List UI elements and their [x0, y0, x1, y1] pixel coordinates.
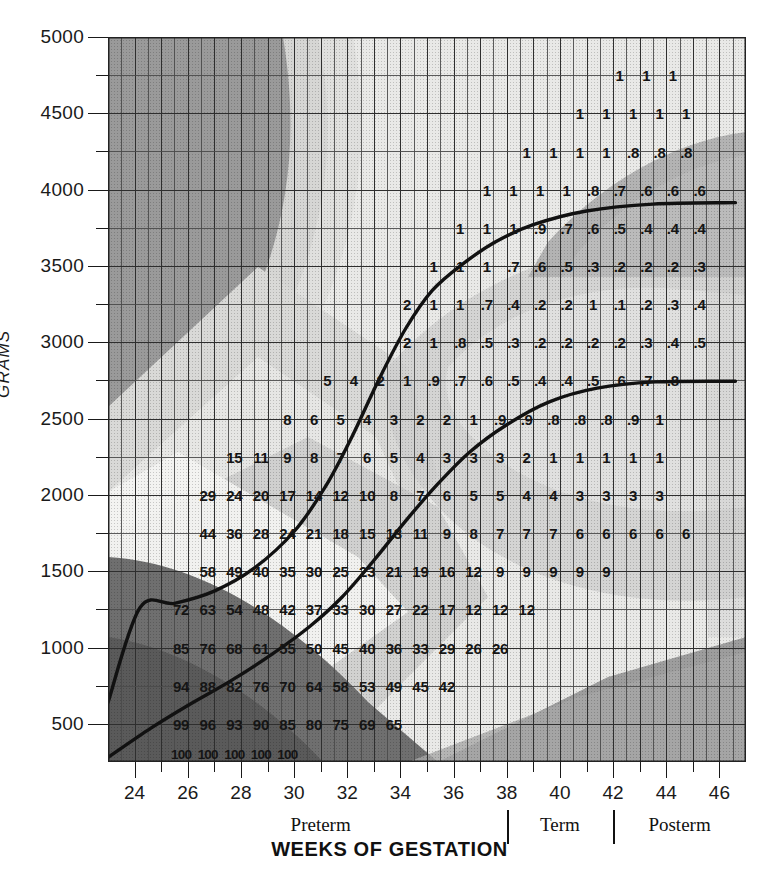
grid-cell-value: 1 — [509, 181, 517, 198]
grid-cell-value: 2 — [416, 410, 424, 427]
grid-cell-value: .4 — [667, 334, 679, 351]
grid-cell-value: 69 — [359, 715, 375, 732]
grid-cell-value: .8 — [454, 334, 466, 351]
grid-cell-value: 18 — [332, 525, 348, 542]
grid-cell-value: 1 — [602, 143, 610, 160]
grid-cell-value: .7 — [614, 181, 626, 198]
grid-cell-value: 1 — [669, 67, 677, 84]
grid-cell-value: .9 — [521, 410, 533, 427]
y-axis-tick-label: 2000 — [41, 484, 84, 506]
grid-cell-value: 26 — [465, 639, 481, 656]
grid-cell-value: 7 — [496, 525, 504, 542]
grid-cell-value: 63 — [200, 601, 216, 618]
y-axis-minor-tick — [96, 228, 108, 229]
y-axis-minor-tick — [96, 75, 108, 76]
grid-cell-value: 5 — [323, 372, 331, 389]
grid-cell-value: 21 — [306, 525, 322, 542]
grid-cell-value: 76 — [253, 677, 269, 694]
grid-cell-value: .2 — [667, 257, 679, 274]
grid-cell-value: 12 — [465, 563, 481, 580]
x-axis-tick-label: 42 — [603, 782, 624, 804]
grid-cell-value: 58 — [200, 563, 216, 580]
grid-cell-value: 28 — [253, 525, 269, 542]
grid-cell-value: 1 — [576, 448, 584, 465]
y-axis-tick-label: 4500 — [41, 102, 84, 124]
grid-cell-value: .8 — [600, 410, 612, 427]
y-axis-minor-tick — [96, 151, 108, 152]
grid-cell-value: 85 — [173, 639, 189, 656]
grid-cell-value: 1 — [629, 105, 637, 122]
x-axis-tick-label: 26 — [177, 782, 198, 804]
grid-cell-value: .3 — [507, 334, 519, 351]
y-axis-title: GRAMS — [0, 330, 14, 398]
grid-cell-value: .3 — [587, 257, 599, 274]
grid-cell-value: 100 — [251, 747, 271, 762]
grid-cell-value: 96 — [200, 715, 216, 732]
x-axis-tick-label: 44 — [656, 782, 677, 804]
grid-cell-value: 40 — [253, 563, 269, 580]
grid-cell-value: 17 — [279, 486, 295, 503]
grid-cell-value: 9 — [602, 563, 610, 580]
grid-cell-value: 93 — [226, 715, 242, 732]
grid-cell-value: .9 — [494, 410, 506, 427]
grid-cell-value: .5 — [614, 219, 626, 236]
y-axis-tick — [88, 648, 108, 649]
x-axis-tick — [666, 762, 667, 778]
x-axis-tick — [427, 762, 428, 772]
grid-cell-value: 88 — [200, 677, 216, 694]
grid-cell-value: 100 — [171, 747, 191, 762]
grid-cell-value: 7 — [523, 525, 531, 542]
grid-cell-value: 1 — [483, 257, 491, 274]
grid-cell-value: .9 — [534, 219, 546, 236]
grid-cell-value: 1 — [549, 143, 557, 160]
grid-cell-value: 49 — [386, 677, 402, 694]
grid-cell-value: 30 — [359, 601, 375, 618]
grid-cell-value: .3 — [640, 334, 652, 351]
grid-cell-value: 21 — [386, 563, 402, 580]
x-axis-tick — [613, 762, 614, 778]
grid-cell-value: 1 — [616, 67, 624, 84]
x-axis-tick — [374, 762, 375, 772]
x-axis-tick — [241, 762, 242, 778]
grid-cell-value: 36 — [386, 639, 402, 656]
grid-cell-value: 9 — [576, 563, 584, 580]
grid-cell-value: 70 — [279, 677, 295, 694]
grid-cell-value: 9 — [496, 563, 504, 580]
grid-cell-value: 4 — [350, 372, 358, 389]
grid-cell-value: 1 — [456, 219, 464, 236]
grid-cell-value: 5 — [390, 448, 398, 465]
grid-cell-value: .2 — [534, 334, 546, 351]
y-axis-tick — [88, 571, 108, 572]
grid-cell-value: 15 — [359, 525, 375, 542]
grid-cell-value: .5 — [561, 257, 573, 274]
y-axis-tick-label: 3000 — [41, 331, 84, 353]
grid-cell-value: .6 — [667, 181, 679, 198]
grid-cell-value: .6 — [614, 372, 626, 389]
grid-cell-value: 15 — [226, 448, 242, 465]
grid-cell-value: 1 — [456, 296, 464, 313]
grid-cell-value: 19 — [412, 563, 428, 580]
x-axis-tick — [693, 762, 694, 772]
grid-cell-value: 12 — [492, 601, 508, 618]
grid-cell-value: 1 — [656, 448, 664, 465]
grid-cell-value: 10 — [359, 486, 375, 503]
grid-cell-value: 99 — [173, 715, 189, 732]
grid-cell-value: 40 — [359, 639, 375, 656]
grid-cell-value: 30 — [306, 563, 322, 580]
grid-cell-value: .2 — [640, 257, 652, 274]
grid-cell-value: 1 — [576, 143, 584, 160]
grid-cell-value: 8 — [283, 410, 291, 427]
x-axis-tick-label: 28 — [230, 782, 251, 804]
grid-cell-value: 23 — [359, 563, 375, 580]
grid-cell-value: 12 — [332, 486, 348, 503]
x-axis-tick — [640, 762, 641, 772]
y-axis-tick — [88, 113, 108, 114]
x-axis-tick — [294, 762, 295, 778]
grid-cell-value: 16 — [439, 563, 455, 580]
grid-cell-value: 3 — [656, 486, 664, 503]
x-axis-tick-label: 40 — [549, 782, 570, 804]
y-axis-minor-tick — [96, 609, 108, 610]
grid-cell-value: 45 — [412, 677, 428, 694]
grid-cell-value: .8 — [547, 410, 559, 427]
x-axis-tick — [321, 762, 322, 772]
